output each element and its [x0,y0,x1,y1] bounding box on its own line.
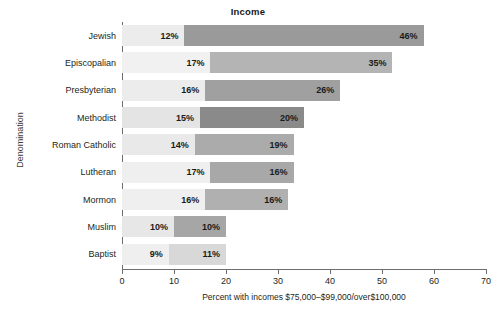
bar-segment-lower-income: 16% [122,80,205,101]
stacked-bar: 9%11% [122,244,226,265]
category-label: Muslim [88,222,117,232]
x-axis-tick [226,269,227,274]
bar-row: Jewish12%46% [122,22,486,49]
bar-segment-higher-income: 20% [200,107,304,128]
bar-value-label: 12% [160,31,178,41]
bar-segment-lower-income: 12% [122,25,184,46]
stacked-bar: 16%16% [122,189,288,210]
category-label: Baptist [88,249,116,259]
y-axis-title: Denomination [15,80,25,200]
category-label: Roman Catholic [52,140,116,150]
bar-row: Baptist9%11% [122,241,486,268]
category-label: Jewish [88,31,116,41]
bar-segment-lower-income: 17% [122,52,210,73]
stacked-bar: 15%20% [122,107,304,128]
plot-area: Jewish12%46%Episcopalian17%35%Presbyteri… [122,22,486,268]
bar-value-label: 16% [181,85,199,95]
x-axis-tick-label: 20 [221,276,231,286]
bar-segment-lower-income: 15% [122,107,200,128]
bar-value-label: 16% [181,195,199,205]
chart-title: Income [0,6,496,17]
bar-value-label: 46% [400,31,418,41]
bar-value-label: 10% [202,222,220,232]
x-axis-title: Percent with incomes $75,000–$99,000/ove… [122,292,486,302]
bar-segment-higher-income: 11% [169,244,226,265]
stacked-bar: 14%19% [122,134,294,155]
bar-segment-higher-income: 16% [210,162,293,183]
stacked-bar: 10%10% [122,216,226,237]
stacked-bar: 17%16% [122,162,294,183]
x-axis-tick [382,269,383,274]
bar-row: Methodist15%20% [122,104,486,131]
x-axis-tick [330,269,331,274]
bar-row: Lutheran17%16% [122,159,486,186]
bar-segment-higher-income: 16% [205,189,288,210]
bar-value-label: 17% [186,58,204,68]
bar-value-label: 9% [150,249,163,259]
category-label: Episcopalian [65,58,116,68]
bar-segment-higher-income: 26% [205,80,340,101]
bar-value-label: 26% [316,85,334,95]
x-axis-tick-label: 0 [119,276,124,286]
bar-value-label: 10% [150,222,168,232]
x-axis-tick [486,269,487,274]
bar-value-label: 19% [270,140,288,150]
bar-value-label: 16% [264,195,282,205]
bar-value-label: 16% [270,167,288,177]
category-label: Mormon [83,195,116,205]
bar-value-label: 17% [186,167,204,177]
x-axis-tick [278,269,279,274]
bar-segment-higher-income: 10% [174,216,226,237]
x-axis-tick [122,269,123,274]
x-axis-tick [174,269,175,274]
bar-value-label: 15% [176,113,194,123]
bar-value-label: 35% [368,58,386,68]
bar-segment-higher-income: 46% [184,25,423,46]
category-label: Lutheran [80,167,116,177]
income-bar-chart: Income Denomination Jewish12%46%Episcopa… [0,0,496,314]
bar-segment-higher-income: 19% [195,134,294,155]
stacked-bar: 16%26% [122,80,340,101]
x-axis-tick-label: 30 [273,276,283,286]
category-label: Presbyterian [65,85,116,95]
x-axis-tick-label: 60 [429,276,439,286]
bar-segment-lower-income: 9% [122,244,169,265]
bar-segment-higher-income: 35% [210,52,392,73]
bar-row: Mormon16%16% [122,186,486,213]
bar-segment-lower-income: 14% [122,134,195,155]
x-axis-tick-label: 40 [325,276,335,286]
bar-row: Presbyterian16%26% [122,77,486,104]
bar-segment-lower-income: 10% [122,216,174,237]
x-axis-tick-label: 70 [481,276,491,286]
bar-value-label: 20% [280,113,298,123]
stacked-bar: 12%46% [122,25,424,46]
bar-segment-lower-income: 17% [122,162,210,183]
bar-row: Episcopalian17%35% [122,49,486,76]
x-axis-tick-label: 10 [169,276,179,286]
bar-row: Muslim10%10% [122,213,486,240]
x-axis-tick-label: 50 [377,276,387,286]
bar-segment-lower-income: 16% [122,189,205,210]
category-label: Methodist [77,113,116,123]
x-axis-tick [434,269,435,274]
x-axis-line [122,269,486,270]
bar-row: Roman Catholic14%19% [122,131,486,158]
bar-value-label: 11% [202,249,220,259]
bar-value-label: 14% [171,140,189,150]
stacked-bar: 17%35% [122,52,392,73]
